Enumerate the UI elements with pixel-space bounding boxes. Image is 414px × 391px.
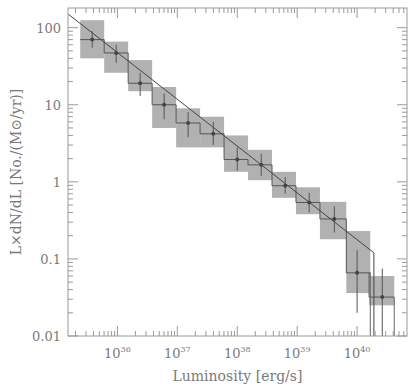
y-axis-title: L×dN/dL [No./(M⊙/yr)] <box>8 89 24 256</box>
x-tick-label: 1038 <box>224 345 251 361</box>
error-box <box>369 276 394 305</box>
error-box <box>200 117 224 148</box>
data-point <box>355 271 359 275</box>
x-tick-labels: 10361037103810391040 <box>104 345 370 361</box>
data-point <box>162 103 166 107</box>
x-tick-label: 1040 <box>344 345 371 361</box>
x-tick-label: 1037 <box>164 345 191 361</box>
y-tick-label: 0.01 <box>32 329 61 344</box>
data-point <box>90 38 94 42</box>
error-box <box>224 135 248 171</box>
data-point <box>283 184 287 188</box>
data-point <box>307 200 311 204</box>
y-tick-label: 0.1 <box>40 252 61 267</box>
y-tick-label: 100 <box>36 21 61 36</box>
data-point <box>332 217 336 221</box>
y-tick-label: 1 <box>53 175 61 190</box>
x-tick-label: 1039 <box>284 345 311 361</box>
data-point <box>211 132 215 136</box>
chart: 10361037103810391040 1001010.10.01 Lumin… <box>0 0 414 391</box>
x-tick-label: 1036 <box>104 345 131 361</box>
x-axis-title: Luminosity [erg/s] <box>173 368 303 384</box>
data-point <box>114 51 118 55</box>
y-tick-label: 10 <box>44 98 61 113</box>
data-point <box>235 157 239 161</box>
y-tick-labels: 1001010.10.01 <box>32 21 61 344</box>
data-point <box>138 81 142 85</box>
data-point <box>380 295 384 299</box>
data-point <box>186 121 190 125</box>
data-point <box>259 163 263 167</box>
